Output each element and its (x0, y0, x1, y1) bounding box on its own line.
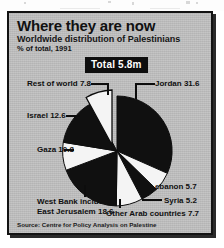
leader-line-rest-of-world-drop (107, 83, 109, 95)
scan-artifact-strip (0, 0, 224, 11)
label-gaza: Gaza 10.8 (37, 145, 74, 155)
label-syria: Syria 5.2 (164, 196, 197, 206)
source-note: Source: Centre for Policy Analysis on Pa… (17, 221, 156, 228)
label-west-bank-line2: East Jerusalem 18.6 (37, 207, 114, 216)
label-west-bank: West Bank including East Jerusalem 18.6 (37, 197, 116, 216)
leader-line-jordan-drop (135, 83, 137, 99)
label-lebanon: Lebanon 5.7 (150, 182, 197, 192)
leader-line-israel (66, 115, 80, 117)
leader-line-syria (142, 199, 162, 201)
leader-line-west-bank (84, 185, 86, 197)
label-other-arab-countries: Other Arab countries 7.7 (106, 209, 199, 219)
label-israel: Israel 12.6 (27, 111, 66, 121)
label-rest-of-world: Rest of world 7.8 (27, 79, 91, 89)
chart-panel: Where they are now Worldwide distributio… (7, 11, 213, 235)
label-west-bank-line1: West Bank including (37, 197, 116, 206)
leader-line-other-arab (119, 199, 121, 208)
label-jordan: Jordan 31.6 (155, 79, 199, 89)
leader-line-jordan (135, 83, 155, 85)
